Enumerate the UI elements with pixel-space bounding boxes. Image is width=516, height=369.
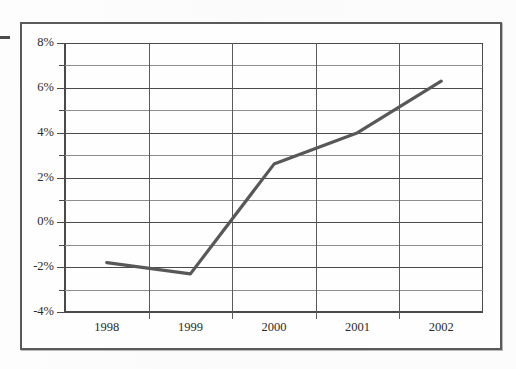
- gridline-horizontal: [65, 267, 483, 268]
- y-axis-tick-label: 8%: [14, 35, 54, 50]
- gridline-vertical: [399, 43, 400, 312]
- y-axis-tick-label: 4%: [14, 125, 54, 140]
- gridline-horizontal: [65, 110, 483, 111]
- y-axis-tick: [57, 133, 64, 134]
- y-axis-tick: [57, 312, 64, 313]
- y-axis-minor-tick: [59, 245, 64, 246]
- y-axis-tick-label: -2%: [14, 259, 54, 274]
- gridline-vertical: [316, 43, 317, 312]
- x-axis-tick-label: 2000: [232, 320, 316, 335]
- gridline-horizontal: [65, 200, 483, 201]
- x-axis-tick-label: 2001: [316, 320, 400, 335]
- x-axis-tick-label: 1999: [148, 320, 232, 335]
- gridline-horizontal: [65, 88, 483, 89]
- x-axis-tick: [232, 312, 233, 319]
- y-axis-minor-tick: [59, 200, 64, 201]
- x-axis-tick-label: 1998: [65, 320, 149, 335]
- y-axis-minor-tick: [59, 110, 64, 111]
- plot-area: [65, 43, 483, 312]
- gridline-horizontal: [65, 245, 483, 246]
- gridline-horizontal: [65, 155, 483, 156]
- gridline-vertical: [232, 43, 233, 312]
- crop-mark-icon: [0, 36, 10, 39]
- gridline-horizontal: [65, 65, 483, 66]
- y-axis-tick: [57, 178, 64, 179]
- y-axis-minor-tick: [59, 290, 64, 291]
- gridline-horizontal: [65, 290, 483, 291]
- gridline-horizontal: [65, 43, 483, 44]
- y-axis-tick: [57, 43, 64, 44]
- y-axis-tick: [57, 267, 64, 268]
- y-axis-tick: [57, 222, 64, 223]
- y-axis-minor-tick: [59, 155, 64, 156]
- chart-figure: 8%6%4%2%0%-2%-4% 19981999200020012002: [0, 0, 516, 369]
- gridline-horizontal: [65, 312, 483, 313]
- y-axis-minor-tick: [59, 65, 64, 66]
- x-axis-tick: [316, 312, 317, 319]
- gridline-horizontal: [65, 222, 483, 223]
- y-axis-tick: [57, 88, 64, 89]
- y-axis-tick-label: -4%: [14, 304, 54, 319]
- x-axis-tick-label: 2002: [399, 320, 483, 335]
- gridline-vertical: [149, 43, 150, 312]
- x-axis-tick: [399, 312, 400, 319]
- y-axis-tick-label: 2%: [14, 170, 54, 185]
- y-axis-tick-label: 6%: [14, 80, 54, 95]
- gridline-horizontal: [65, 133, 483, 134]
- y-axis-tick-label: 0%: [14, 214, 54, 229]
- gridline-horizontal: [65, 178, 483, 179]
- x-axis-tick: [149, 312, 150, 319]
